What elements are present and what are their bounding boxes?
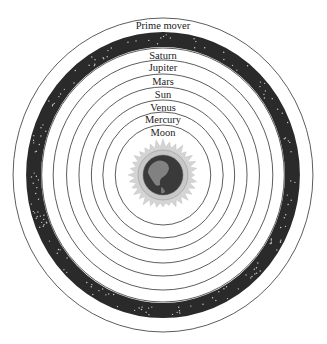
label-venus: Venus: [150, 102, 176, 113]
earth-globe: [128, 139, 197, 207]
label-jupiter: Jupiter: [149, 62, 178, 73]
label-mars: Mars: [152, 76, 174, 87]
label-mercury: Mercury: [145, 114, 182, 125]
label-prime-mover: Prime mover: [136, 20, 191, 31]
geocentric-diagram: Prime moverSaturnJupiterMarsSunVenusMerc…: [0, 0, 327, 344]
label-sun: Sun: [155, 89, 172, 100]
label-saturn: Saturn: [149, 50, 177, 61]
label-moon: Moon: [150, 127, 176, 138]
